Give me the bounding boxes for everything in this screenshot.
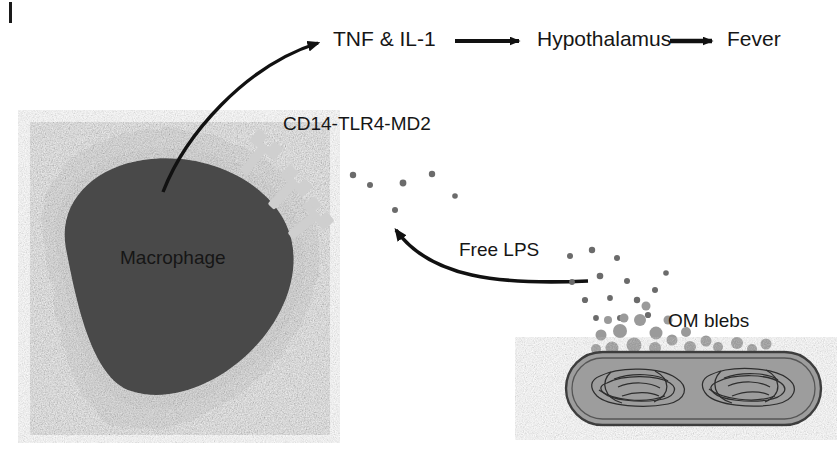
label-cytokines: TNF & IL-1 <box>333 28 436 49</box>
label-fever: Fever <box>727 28 781 49</box>
label-hypothalamus: Hypothalamus <box>537 28 671 49</box>
edge-tick-marker <box>9 2 12 23</box>
label-macrophage: Macrophage <box>120 248 226 267</box>
label-free-lps: Free LPS <box>459 240 539 259</box>
bacterium <box>566 352 821 425</box>
macrophage-cell <box>41 130 319 430</box>
bacterium-outer-membrane <box>566 352 821 425</box>
diagram-canvas <box>0 0 837 471</box>
label-receptor: CD14-TLR4-MD2 <box>283 114 431 133</box>
pathway-figure: TNF & IL-1 Hypothalamus Fever CD14-TLR4-… <box>0 0 837 471</box>
label-om-blebs: OM blebs <box>668 311 749 330</box>
